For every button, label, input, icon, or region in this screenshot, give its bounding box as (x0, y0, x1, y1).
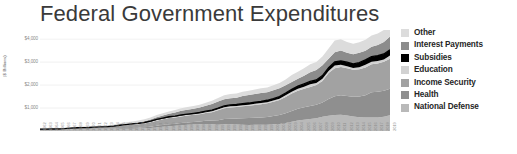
legend-item-label: Other (414, 27, 435, 39)
legend-item-label: Income Security (414, 77, 476, 89)
y-tick-label: $4,000 (2, 36, 38, 41)
legend-swatch-icon (401, 54, 409, 62)
legend-item-label: National Defense (414, 101, 479, 113)
y-tick-label: $1,000 (2, 105, 38, 110)
legend-item-subsidies[interactable]: Subsidies (401, 52, 517, 64)
y-tick-label: $2,000 (2, 82, 38, 87)
legend-swatch-icon (401, 91, 409, 99)
chart-figure: Federal Government Expenditures ($ Billi… (0, 0, 517, 154)
legend-item-label: Interest Payments (414, 39, 483, 51)
legend-swatch-icon (401, 104, 409, 112)
legend-item-interest-payments[interactable]: Interest Payments (401, 39, 517, 51)
legend-item-national-defense[interactable]: National Defense (401, 101, 517, 113)
chart-title: Federal Government Expenditures (40, 0, 380, 29)
legend-item-education[interactable]: Education (401, 64, 517, 76)
legend-swatch-icon (401, 66, 409, 74)
legend-item-label: Health (414, 89, 438, 101)
legend-swatch-icon (401, 42, 409, 50)
x-axis-tick-labels: 1962196319641965196619671968196919701971… (40, 131, 390, 154)
legend-item-label: Education (414, 64, 453, 76)
legend-swatch-icon (401, 29, 409, 37)
chart-legend: OtherInterest PaymentsSubsidiesEducation… (401, 27, 517, 119)
legend-item-label: Subsidies (414, 52, 452, 64)
y-axis-tick-labels: $1,000$2,000$3,000$4,000 (0, 30, 38, 131)
legend-item-other[interactable]: Other (401, 27, 517, 39)
legend-swatch-icon (401, 79, 409, 87)
legend-item-income-security[interactable]: Income Security (401, 77, 517, 89)
legend-item-health[interactable]: Health (401, 89, 517, 101)
y-tick-label: $3,000 (2, 59, 38, 64)
